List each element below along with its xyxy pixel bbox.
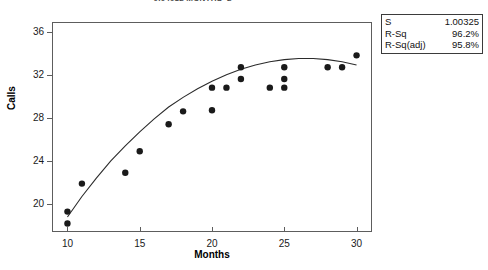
x-tick-label: 20 [206, 238, 217, 249]
statistics-box: S 1.00325 R-Sq 96.2% R-Sq(adj) 95.8% [381, 14, 483, 54]
plot-canvas [53, 23, 371, 231]
data-point [180, 108, 186, 114]
data-point [209, 84, 215, 90]
y-tick-mark [47, 161, 52, 162]
chart-title: - 0.04012 MONTHS^2 [0, 0, 380, 3]
plot-area [52, 22, 372, 232]
regression-fit-line [67, 59, 356, 217]
y-tick-mark [47, 118, 52, 119]
stats-row: R-Sq 96.2% [382, 28, 482, 40]
stats-value: 1.00325 [445, 16, 479, 28]
y-tick-label: 24 [33, 155, 44, 166]
y-tick-label: 36 [33, 26, 44, 37]
data-point [122, 170, 128, 176]
x-tick-label: 15 [134, 238, 145, 249]
stats-key: R-Sq(adj) [385, 39, 426, 51]
y-tick-label: 20 [33, 198, 44, 209]
x-tick-mark [140, 227, 141, 232]
x-axis-label: Months [52, 249, 372, 260]
data-point [238, 64, 244, 70]
data-point [209, 107, 215, 113]
data-point [165, 121, 171, 127]
stats-key: S [385, 16, 391, 28]
scatterplot-chart: - 0.04012 MONTHS^2 Calls Months 20242832… [0, 0, 488, 270]
x-tick-label: 30 [351, 238, 362, 249]
data-point [64, 208, 70, 214]
x-tick-mark [357, 227, 358, 232]
data-point [281, 64, 287, 70]
data-point [339, 64, 345, 70]
x-tick-mark [67, 227, 68, 232]
data-point [223, 84, 229, 90]
stats-row: R-Sq(adj) 95.8% [382, 39, 482, 51]
data-point [238, 76, 244, 82]
y-axis-label: Calls [6, 86, 17, 110]
data-point [137, 148, 143, 154]
stats-row: S 1.00325 [382, 16, 482, 28]
data-point [64, 220, 70, 226]
x-tick-mark [284, 227, 285, 232]
x-tick-mark [212, 227, 213, 232]
data-point [79, 180, 85, 186]
data-point [324, 64, 330, 70]
data-point [281, 76, 287, 82]
stats-value: 95.8% [452, 39, 479, 51]
stats-key: R-Sq [385, 28, 407, 40]
x-tick-label: 10 [62, 238, 73, 249]
x-tick-label: 25 [279, 238, 290, 249]
y-tick-label: 32 [33, 69, 44, 80]
data-point [281, 84, 287, 90]
y-tick-mark [47, 32, 52, 33]
data-point [353, 52, 359, 58]
y-tick-label: 28 [33, 112, 44, 123]
stats-value: 96.2% [452, 28, 479, 40]
y-tick-mark [47, 204, 52, 205]
y-tick-mark [47, 75, 52, 76]
data-point [267, 84, 273, 90]
